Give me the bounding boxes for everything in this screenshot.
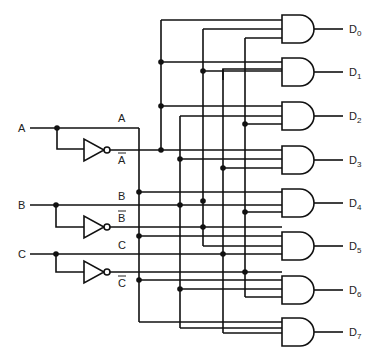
- and-gate-d6: [282, 276, 314, 304]
- a-true-label: A: [118, 112, 126, 124]
- b-true-label: B: [118, 190, 125, 202]
- b-complement-label: B: [118, 212, 125, 224]
- vertical-buses: [139, 20, 245, 333]
- and-gate-d4: [282, 189, 314, 217]
- and-gates: [282, 15, 314, 346]
- output-wires: [314, 29, 343, 332]
- output-d7-label: D7: [349, 326, 362, 341]
- output-d4-label: D4: [349, 197, 362, 212]
- and-gate-d3: [282, 146, 314, 174]
- junction-dots: [53, 59, 248, 292]
- output-d5-label: D5: [349, 240, 362, 255]
- a-complement-label: A: [118, 154, 126, 166]
- output-d6-label: D6: [349, 284, 362, 299]
- c-complement-label: C: [118, 277, 126, 289]
- output-d1-label: D1: [349, 66, 362, 81]
- decoder-diagram: A A A B B B C C C D0 D1 D2 D3 D4 D5 D6 D…: [0, 0, 381, 364]
- c-true-label: C: [118, 239, 126, 251]
- and-gate-d2: [282, 102, 314, 130]
- output-d3-label: D3: [349, 154, 362, 169]
- output-d2-label: D2: [349, 110, 362, 125]
- output-d0-label: D0: [349, 23, 362, 38]
- and-gate-d7: [282, 318, 314, 346]
- and-gate-d0: [282, 15, 314, 43]
- input-c-label: C: [18, 248, 26, 260]
- input-a-label: A: [18, 122, 26, 134]
- and-gate-d5: [282, 232, 314, 260]
- input-b-label: B: [18, 199, 25, 211]
- and-gate-d1: [282, 58, 314, 86]
